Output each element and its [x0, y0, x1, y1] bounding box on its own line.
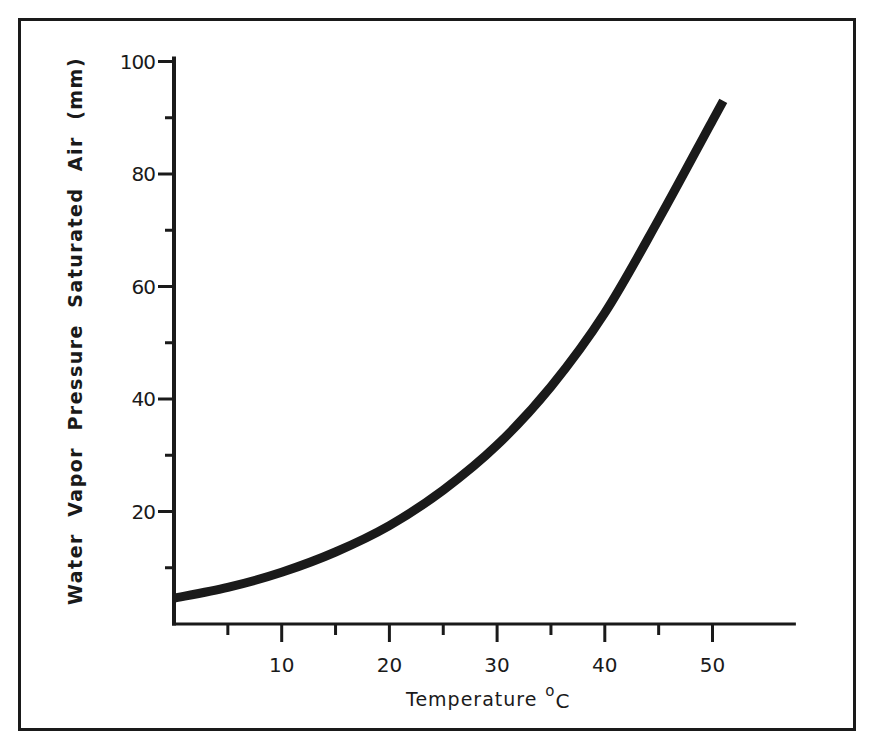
y-tick-label: 60 — [132, 275, 156, 299]
y-axis-label: Water Vapor Pressure Saturated Air (mm) — [64, 57, 86, 605]
x-tick-label: 20 — [377, 653, 402, 677]
chart-figure: 102030405020406080100 TemperatureoC Wate… — [0, 0, 874, 747]
x-tick-label: 50 — [700, 653, 725, 677]
y-tick-label: 20 — [132, 500, 156, 524]
y-tick-label: 80 — [132, 162, 156, 186]
chart-canvas: 102030405020406080100 TemperatureoC Wate… — [0, 0, 874, 747]
x-tick-label: 40 — [592, 653, 617, 677]
y-tick-label: 40 — [132, 387, 156, 411]
x-tick-label: 30 — [484, 653, 509, 677]
y-tick-label: 100 — [120, 50, 155, 74]
x-tick-label: 10 — [269, 653, 294, 677]
